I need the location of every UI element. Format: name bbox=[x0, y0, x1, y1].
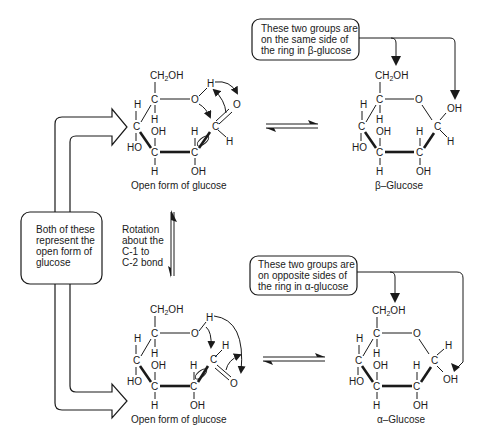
svg-text:OH: OH bbox=[151, 360, 166, 371]
svg-text:HO: HO bbox=[352, 142, 367, 153]
callout-line: on the same side of bbox=[261, 34, 348, 45]
svg-text:H: H bbox=[151, 166, 158, 177]
svg-text:C: C bbox=[151, 94, 158, 105]
beta-glucose-structure: CH2OH C O H H C HO OH C H H C OH C OH H … bbox=[352, 70, 462, 191]
svg-text:CH2OH: CH2OH bbox=[150, 70, 183, 82]
svg-text:HO: HO bbox=[127, 376, 142, 387]
svg-text:H: H bbox=[373, 400, 380, 411]
svg-text:H: H bbox=[206, 312, 213, 323]
svg-text:C: C bbox=[191, 147, 198, 158]
svg-text:C: C bbox=[151, 328, 158, 339]
svg-text:H: H bbox=[356, 333, 363, 344]
svg-text:C: C bbox=[373, 381, 380, 392]
beta-callout: These two groups are on the same side of… bbox=[252, 19, 460, 100]
svg-text:C: C bbox=[431, 355, 438, 366]
svg-text:C: C bbox=[376, 147, 383, 158]
callout-line: the ring in β-glucose bbox=[261, 45, 352, 56]
callout-line: glucose bbox=[36, 257, 71, 268]
callout-line: Both of these bbox=[36, 224, 95, 235]
svg-text:H: H bbox=[226, 136, 233, 147]
open-form-callout: Both of these represent the open form of… bbox=[21, 212, 102, 284]
svg-text:HO: HO bbox=[127, 142, 142, 153]
svg-text:H: H bbox=[151, 114, 158, 125]
svg-text:H: H bbox=[151, 400, 158, 411]
callout-line: represent the bbox=[36, 235, 95, 246]
svg-text:O: O bbox=[415, 94, 423, 105]
rotation-label: Rotation about the C-1 to C-2 bond bbox=[122, 224, 164, 268]
svg-text:OH: OH bbox=[191, 166, 206, 177]
svg-text:H: H bbox=[376, 114, 383, 125]
open-form-top-structure: CH2OH C O H H C HO OH C H H C OH C H O H bbox=[127, 70, 241, 191]
structure-caption: α–Glucose bbox=[377, 414, 425, 425]
callout-line: These two groups are bbox=[261, 23, 358, 34]
svg-text:OH: OH bbox=[443, 374, 458, 385]
structure-caption: Open form of glucose bbox=[131, 180, 227, 191]
svg-text:H: H bbox=[134, 99, 141, 110]
svg-text:H: H bbox=[416, 126, 423, 137]
alpha-glucose-structure: CH2OH C O H H C HO OH C H H C OH C H OH … bbox=[349, 305, 458, 425]
svg-text:C: C bbox=[358, 121, 365, 132]
structure-caption: Open form of glucose bbox=[131, 414, 227, 425]
svg-text:CH2OH: CH2OH bbox=[375, 70, 408, 82]
svg-text:H: H bbox=[190, 360, 197, 371]
svg-text:C: C bbox=[151, 381, 158, 392]
svg-text:C: C bbox=[373, 328, 380, 339]
svg-text:H: H bbox=[191, 126, 198, 137]
svg-text:OH: OH bbox=[373, 360, 388, 371]
svg-text:O: O bbox=[191, 328, 199, 339]
svg-text:H: H bbox=[207, 78, 214, 89]
svg-text:OH: OH bbox=[447, 103, 462, 114]
svg-text:H: H bbox=[413, 360, 420, 371]
svg-text:H: H bbox=[222, 340, 229, 351]
svg-text:H: H bbox=[373, 348, 380, 359]
svg-text:C: C bbox=[376, 94, 383, 105]
svg-text:H: H bbox=[134, 333, 141, 344]
svg-text:CH2OH: CH2OH bbox=[372, 305, 405, 317]
vertical-equilibrium-arrows bbox=[168, 210, 177, 278]
svg-text:C: C bbox=[133, 355, 140, 366]
svg-text:HO: HO bbox=[349, 376, 364, 387]
svg-text:H: H bbox=[360, 99, 367, 110]
svg-text:C: C bbox=[190, 381, 197, 392]
svg-text:H: H bbox=[151, 348, 158, 359]
svg-text:O: O bbox=[191, 94, 199, 105]
open-form-bottom-structure: CH2OH C O H H C HO OH C H H C OH C H O H bbox=[127, 304, 242, 425]
svg-text:C: C bbox=[151, 147, 158, 158]
svg-text:C: C bbox=[355, 355, 362, 366]
callout-line: These two groups are bbox=[258, 259, 355, 270]
top-equilibrium-arrows bbox=[266, 120, 318, 132]
svg-text:OH: OH bbox=[376, 126, 391, 137]
svg-text:O: O bbox=[230, 378, 238, 389]
svg-text:C: C bbox=[416, 147, 423, 158]
svg-text:C: C bbox=[413, 381, 420, 392]
svg-text:O: O bbox=[413, 328, 421, 339]
svg-text:CH2OH: CH2OH bbox=[150, 304, 183, 316]
svg-text:OH: OH bbox=[413, 400, 428, 411]
structure-caption: β–Glucose bbox=[375, 180, 423, 191]
svg-text:C-2 bond: C-2 bond bbox=[122, 257, 163, 268]
glucose-ring-formation-diagram: Both of these represent the open form of… bbox=[0, 0, 488, 443]
svg-text:C: C bbox=[133, 121, 140, 132]
svg-text:OH: OH bbox=[416, 166, 431, 177]
svg-text:H: H bbox=[447, 136, 454, 147]
svg-text:H: H bbox=[376, 166, 383, 177]
callout-line: on opposite sides of bbox=[258, 270, 347, 281]
bottom-equilibrium-arrows bbox=[263, 353, 325, 365]
svg-text:OH: OH bbox=[190, 400, 205, 411]
svg-text:C-1 to: C-1 to bbox=[122, 246, 150, 257]
callout-line: the ring in α-glucose bbox=[258, 281, 349, 292]
svg-text:about the: about the bbox=[122, 235, 164, 246]
svg-text:Rotation: Rotation bbox=[122, 224, 159, 235]
svg-text:OH: OH bbox=[151, 126, 166, 137]
svg-text:O: O bbox=[233, 99, 241, 110]
svg-text:H: H bbox=[445, 340, 452, 351]
callout-line: open form of bbox=[36, 246, 92, 257]
